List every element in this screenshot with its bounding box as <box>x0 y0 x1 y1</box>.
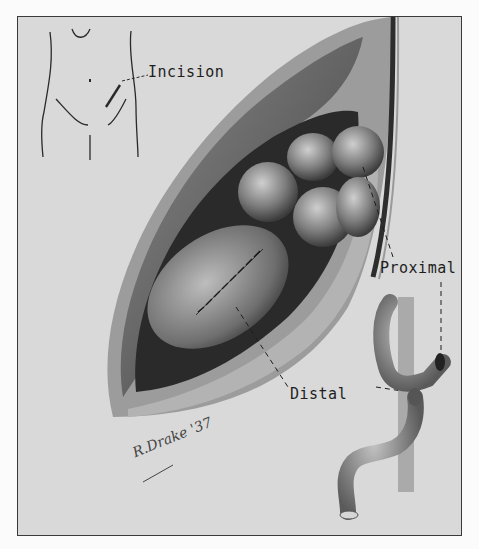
label-distal: Distal <box>290 385 347 403</box>
torso-sketch <box>42 29 148 160</box>
label-proximal: Proximal <box>380 259 456 277</box>
colon-diagram <box>340 297 445 519</box>
illustration-frame: Incision Proximal Distal R.Drake '37 <box>17 16 462 536</box>
label-incision: Incision <box>148 63 224 81</box>
